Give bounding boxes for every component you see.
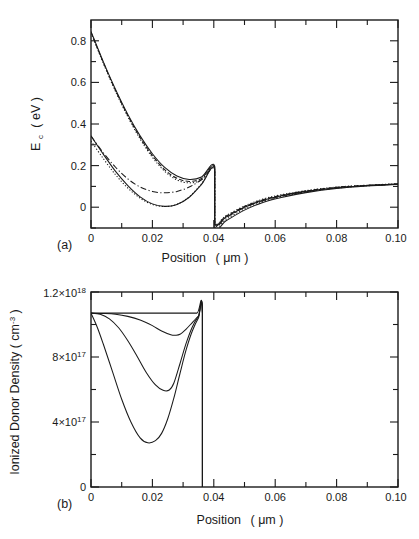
panel-b-ytick-2: 8×1017 — [52, 350, 86, 363]
panel-b-ytick-0: 0 — [80, 481, 86, 493]
panel-b-xtick-3: 0.06 — [264, 491, 285, 503]
panel-a-xaxis-title: Position ( μm ) — [162, 251, 249, 265]
curve-lower-band-dotted — [91, 141, 398, 229]
panel-b-xtick-5: 0.10 — [385, 491, 406, 503]
panel-b-xaxis-title: Position ( μm ) — [197, 513, 284, 527]
panel-a-x-ticks — [91, 20, 398, 228]
curve-flat-profile — [91, 300, 202, 487]
panel-a-xtick-1: 0.02 — [142, 232, 163, 244]
panel-a-xtick-5: 0.10 — [385, 232, 406, 244]
panel-a-y-ticks — [91, 41, 398, 228]
scientific-figure: 0 0.2 0.4 0.6 0.8 — [0, 0, 419, 539]
svg-text:Ionized Donor Density ( cm-3 ): Ionized Donor Density ( cm-3 ) — [8, 309, 22, 475]
panel-a-xaxis-title-main: Position — [162, 251, 207, 265]
panel-b-y-ticks — [91, 292, 398, 487]
panel-a-ytick-0: 0 — [80, 201, 86, 213]
panel-a: 0 0.2 0.4 0.6 0.8 — [29, 20, 407, 265]
panel-a-yaxis-title-unit: ( eV ) — [29, 97, 43, 128]
panel-a-ytick-2: 0.4 — [71, 118, 86, 130]
panel-b-xtick-2: 0.04 — [203, 491, 224, 503]
panel-b-yaxis-title-tail: ) — [8, 309, 22, 317]
panel-a-xtick-4: 0.08 — [326, 232, 347, 244]
panel-a-yaxis-title: E c ( eV ) — [29, 97, 46, 151]
panel-b-xtick-4: 0.08 — [326, 491, 347, 503]
panel-a-y-axis: 0 0.2 0.4 0.6 0.8 — [71, 35, 398, 228]
curve-lower-band-dashdot — [91, 136, 398, 227]
panel-b-xaxis-title-main: Position — [197, 513, 242, 527]
panel-b-ytick-2-exponent: 17 — [77, 350, 86, 359]
panel-a-ytick-1: 0.2 — [71, 160, 86, 172]
panel-a-yaxis-title-main: E — [29, 143, 43, 151]
panel-a-xtick-2: 0.04 — [203, 232, 224, 244]
panel-b-xtick-1: 0.02 — [142, 491, 163, 503]
panel-b-ytick-3: 1.2×1018 — [43, 286, 86, 299]
panel-b-label: (b) — [57, 497, 72, 511]
panel-a-xaxis-title-unit: ( μm ) — [216, 251, 249, 265]
panel-b-xtick-0: 0 — [88, 491, 94, 503]
panel-b-y-axis: 0 4×1017 8×1017 1.2×1018 — [43, 286, 398, 493]
panel-b-x-axis: 0 0.02 0.04 0.06 0.08 0.10 — [88, 292, 407, 503]
panel-a-frame — [91, 20, 398, 228]
panel-b-x-ticks — [91, 292, 398, 487]
panel-b-ytick-1-exponent: 17 — [77, 415, 86, 424]
panel-b-yaxis-title-main: Ionized Donor Density ( cm — [8, 324, 22, 475]
panel-a-ytick-4: 0.8 — [71, 35, 86, 47]
panel-b-frame — [91, 292, 398, 487]
panel-b-yaxis-title: Ionized Donor Density ( cm-3 ) — [8, 309, 22, 475]
panel-a-ytick-3: 0.6 — [71, 76, 86, 88]
panel-b-ytick-1-mantissa: 4×10 — [52, 416, 77, 428]
panel-a-label: (a) — [57, 238, 72, 252]
svg-text:E c ( eV ): E c ( eV ) — [29, 97, 46, 151]
panel-a-xtick-3: 0.06 — [264, 232, 285, 244]
panel-b-ytick-1: 4×1017 — [52, 415, 86, 428]
panel-b-xaxis-title-unit: ( μm ) — [251, 513, 284, 527]
panel-b: 0 4×1017 8×1017 1.2×1018 — [8, 286, 407, 527]
panel-b-curves — [91, 300, 202, 487]
panel-a-curves — [91, 31, 398, 230]
figure-canvas: 0 0.2 0.4 0.6 0.8 — [0, 0, 419, 539]
panel-b-ytick-2-mantissa: 8×10 — [52, 351, 77, 363]
panel-b-ytick-3-exponent: 18 — [77, 286, 86, 295]
panel-a-yaxis-title-sub: c — [36, 135, 45, 139]
curve-lower-band-solid — [91, 136, 398, 231]
curve-shallow-depletion — [91, 301, 202, 487]
panel-a-xtick-0: 0 — [88, 232, 94, 244]
panel-b-ytick-3-mantissa: 1.2×10 — [43, 287, 77, 299]
